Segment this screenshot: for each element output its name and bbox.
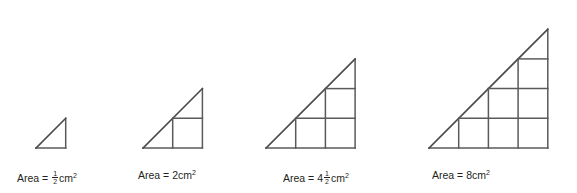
triangle-1-area-label: Area = 12cm2 <box>17 170 77 186</box>
triangle-2-area-label: Area = 2cm2 <box>138 170 196 181</box>
triangle-3-area-unit: cm <box>331 172 345 184</box>
triangle-4-area-unit: cm <box>472 169 486 181</box>
triangle-1-fraction-denominator: 2 <box>52 178 58 186</box>
triangle-1-area-value-fraction: 12 <box>52 170 58 186</box>
triangle-3-fraction-numerator: 1 <box>324 170 330 178</box>
triangle-3-hypotenuse <box>266 59 355 148</box>
triangle-3-area-value-fraction: 12 <box>324 170 330 186</box>
triangle-3-area-label: Area = 412cm2 <box>283 170 349 186</box>
figure-stage: Area = 12cm2Area = 2cm2Area = 412cm2Area… <box>0 0 577 193</box>
triangle-1 <box>36 118 66 148</box>
triangle-4-area-label: Area = 8cm2 <box>432 170 490 181</box>
triangle-2-area-unit: cm <box>178 169 192 181</box>
triangle-2-area-unit-exponent: 2 <box>192 169 196 176</box>
triangle-2-area-label-prefix: Area = <box>138 169 172 181</box>
triangle-4 <box>429 29 548 148</box>
triangle-1-area-unit: cm <box>59 172 73 184</box>
triangle-series-diagram <box>0 0 577 193</box>
triangle-3-fraction-denominator: 2 <box>324 178 330 186</box>
triangle-1-fraction-numerator: 1 <box>52 170 58 178</box>
triangle-1-hypotenuse <box>36 118 66 148</box>
triangle-4-area-unit-exponent: 2 <box>486 169 490 176</box>
triangle-4-area-label-prefix: Area = <box>432 169 466 181</box>
triangle-3-area-value-whole: 4 <box>317 172 323 184</box>
triangle-3-area-label-prefix: Area = <box>283 172 317 184</box>
triangle-3 <box>266 59 355 148</box>
triangle-1-area-unit-exponent: 2 <box>73 172 77 179</box>
triangle-2 <box>143 89 202 148</box>
triangle-3-area-unit-exponent: 2 <box>345 172 349 179</box>
triangle-1-area-label-prefix: Area = <box>17 172 51 184</box>
